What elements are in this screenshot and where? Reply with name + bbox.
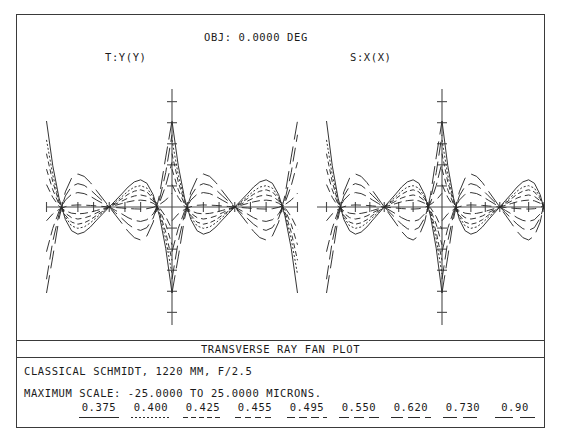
ray-fan-plot-area: OBJ: 0.0000 DEG T:Y(Y) S:X(X) [17,15,544,327]
sagittal-axis-label: S:X(X) [350,51,392,63]
object-angle-label: OBJ: 0.0000 DEG [204,31,308,43]
legend-entry: 0.425 [179,401,227,419]
system-description: CLASSICAL SCHMIDT, 1220 MM, F/2.5 [24,365,252,377]
legend-wavelength-label: 0.400 [127,401,175,413]
plot-title-row: TRANSVERSE RAY FAN PLOT [17,341,544,357]
legend-wavelength-label: 0.550 [335,401,383,413]
legend-wavelength-label: 0.730 [439,401,487,413]
plot-frame: OBJ: 0.0000 DEG T:Y(Y) S:X(X) TRANSVERSE… [16,14,545,428]
legend-entry: 0.375 [75,401,123,418]
separator-middle [17,357,544,358]
legend-wavelength-label: 0.375 [75,401,123,413]
legend-line-swatch [339,417,379,419]
legend-line-swatch [495,417,535,419]
legend-entry: 0.400 [127,401,175,419]
legend-entry: 0.550 [335,401,383,419]
legend-wavelength-label: 0.495 [283,401,331,413]
tangential-axis-label: T:Y(Y) [105,51,147,63]
legend-line-swatch [183,417,223,419]
legend-entry: 0.620 [387,401,435,419]
wavelength-legend: 0.3750.4000.4250.4550.4950.5500.6200.730… [17,401,544,431]
legend-line-swatch [287,417,327,419]
legend-wavelength-label: 0.425 [179,401,227,413]
legend-entry: 0.455 [231,401,279,419]
legend-wavelength-label: 0.90 [491,401,539,413]
legend-line-swatch [391,417,431,419]
plot-title: TRANSVERSE RAY FAN PLOT [17,343,544,355]
legend-line-swatch [235,417,275,419]
legend-entry: 0.730 [439,401,487,419]
legend-wavelength-label: 0.620 [387,401,435,413]
legend-entry: 0.90 [491,401,539,419]
legend-line-swatch [443,417,483,419]
legend-entry: 0.495 [283,401,331,419]
scale-description: MAXIMUM SCALE: -25.0000 TO 25.0000 MICRO… [24,387,322,399]
legend-clip: 0.3750.4000.4250.4550.4950.5500.6200.730… [17,401,544,431]
legend-wavelength-label: 0.455 [231,401,279,413]
ray-fan-svg [17,15,544,327]
legend-line-swatch [131,417,171,419]
legend-line-swatch [79,417,119,418]
